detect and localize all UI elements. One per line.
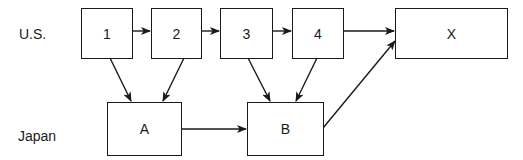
node-x: X xyxy=(395,8,508,59)
node-1: 1 xyxy=(81,8,133,59)
node-4: 4 xyxy=(292,8,344,59)
edge-1-a xyxy=(110,58,131,101)
node-a: A xyxy=(107,102,182,156)
edge-4-b xyxy=(296,58,317,101)
node-3: 3 xyxy=(220,8,273,59)
node-b: B xyxy=(247,102,324,156)
edge-3-b xyxy=(248,58,270,101)
edge-2-a xyxy=(163,58,184,101)
node-2: 2 xyxy=(151,8,202,59)
